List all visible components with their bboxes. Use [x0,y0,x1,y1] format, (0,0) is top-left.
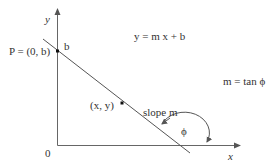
point-p-label: P = (0, b) [9,46,50,57]
intercept-label: b [64,41,70,52]
equation-label: y = m x + b [134,31,185,42]
point-xy-label: (x, y) [90,100,114,111]
slope-relation-label: m = tan ϕ [223,76,265,87]
angle-label: ϕ [181,126,187,137]
x-axis-label: x [228,151,233,162]
origin-label: 0 [45,148,51,159]
point-p [56,50,59,53]
point-xy [121,102,124,105]
slope-label: slope m [143,107,178,118]
y-axis-label: y [45,14,50,25]
sloped-line [43,39,190,153]
